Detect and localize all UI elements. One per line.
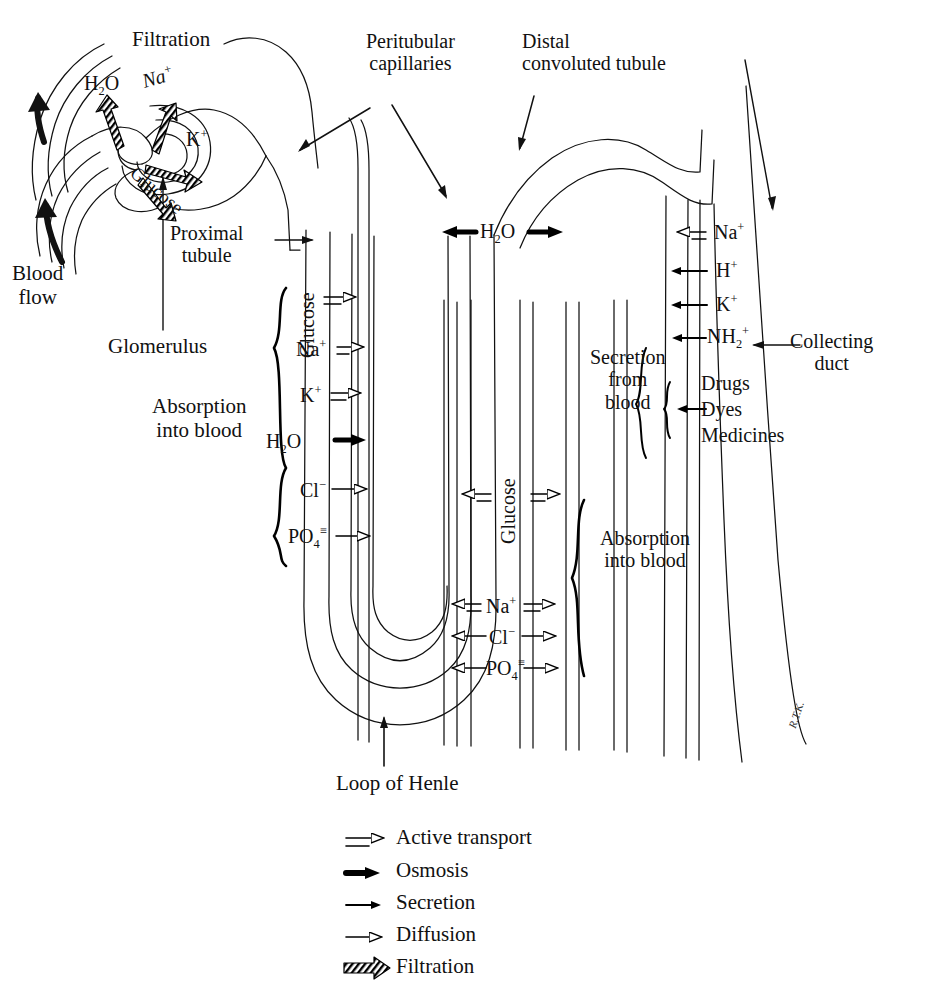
- nephron-illustration: [0, 0, 928, 1006]
- collecting-substance-h: H+: [716, 259, 737, 281]
- label-loop-of-henle: Loop of Henle: [336, 772, 458, 796]
- nephron-diagram-page: Filtration Peritubular capillaries Dista…: [0, 0, 928, 1006]
- legend-label-secretion: Secretion: [396, 891, 475, 915]
- glomerulus-substance-k: K+: [186, 128, 207, 150]
- loop-substance-na: Na+: [486, 595, 516, 617]
- proximal-substance-cl: Cl−: [300, 479, 326, 501]
- label-secretion-from-blood: Secretion from blood: [590, 346, 666, 413]
- collecting-substance-na: Na+: [714, 221, 744, 243]
- label-absorption-into-blood-lower: Absorption into blood: [600, 527, 690, 572]
- legend-label-filtration: Filtration: [396, 955, 474, 979]
- collecting-substance-dyes: Dyes: [701, 398, 742, 420]
- loop-substance-h2o: H2O: [480, 220, 515, 242]
- label-peritubular-capillaries: Peritubular capillaries: [366, 30, 455, 75]
- label-collecting-duct: Collecting duct: [790, 330, 873, 375]
- label-blood-flow: Blood flow: [12, 262, 63, 309]
- collecting-substance-k: K+: [716, 293, 737, 315]
- label-filtration: Filtration: [132, 28, 210, 52]
- label-absorption-into-blood-upper: Absorption into blood: [152, 395, 247, 442]
- proximal-substance-k: K+: [300, 384, 321, 406]
- label-proximal-tubule: Proximal tubule: [170, 222, 243, 267]
- collecting-substance-medicines: Medicines: [701, 424, 784, 446]
- proximal-substance-po4: PO4≡: [288, 525, 327, 547]
- label-distal-convoluted-tubule: Distal convoluted tubule: [522, 30, 666, 75]
- legend-label-diffusion: Diffusion: [396, 923, 476, 947]
- loop-substance-glucose: Glucose: [497, 452, 519, 544]
- legend-label-osmosis: Osmosis: [396, 859, 468, 883]
- collecting-substance-nh2: NH2+: [707, 325, 749, 347]
- loop-substance-cl: Cl−: [489, 626, 515, 648]
- glomerulus-substance-h2o: H2O: [84, 72, 119, 94]
- proximal-substance-na: Na+: [296, 338, 326, 360]
- legend-label-active-transport: Active transport: [396, 826, 532, 850]
- loop-substance-po4: PO4≡: [486, 657, 525, 679]
- label-glomerulus: Glomerulus: [108, 335, 207, 359]
- collecting-substance-drugs: Drugs: [701, 372, 750, 394]
- proximal-substance-h2o: H2O: [266, 430, 301, 452]
